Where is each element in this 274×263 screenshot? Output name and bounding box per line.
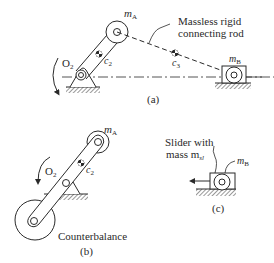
mass-a-label-a: mA [124, 7, 137, 21]
ground-hatch-c [196, 189, 236, 196]
figure-b-caption: (b) [80, 245, 93, 258]
slider-label-line1: Slider with [165, 136, 214, 148]
rod-label-line1: Massless rigid [178, 15, 242, 27]
figure-b [15, 131, 109, 240]
rotation-arrow-a [53, 58, 58, 93]
centroid-c2-label-b: c2 [86, 164, 94, 177]
rod-label-line2: connecting rod [178, 27, 244, 39]
mass-a-label-b: mA [104, 123, 117, 137]
slider-leader [213, 146, 216, 173]
pivot-label-a: O2 [62, 57, 74, 71]
figure-a-caption: (a) [147, 93, 160, 106]
mass-b-leader [225, 161, 235, 173]
mechanism-diagram: mA O2 c2 c3 Massless rigid connecting ro… [0, 0, 274, 263]
pivot-pin-b [63, 180, 70, 187]
mass-b-label-a: mB [229, 53, 241, 66]
ground-hatch-o2 [66, 87, 100, 93]
mass-b-pin-c [219, 179, 225, 185]
counterbalance-pin [31, 218, 38, 225]
mass-b-pin-a [231, 72, 237, 78]
centroid-c3-label: c3 [172, 57, 180, 70]
ground-hatch-b [215, 83, 251, 89]
pivot-label-b: O2 [45, 165, 57, 179]
centroid-c2-label-a: c2 [104, 55, 112, 68]
mass-b-label-c: mB [237, 155, 249, 168]
figure-c-caption: (c) [212, 202, 225, 215]
counterbalance-label: Counterbalance [58, 230, 127, 242]
rod-label-leader [149, 24, 170, 43]
slider-label-line2: mass msl [166, 148, 204, 162]
